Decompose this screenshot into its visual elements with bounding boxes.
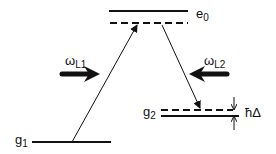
diagram-graphics <box>0 0 276 154</box>
lambda-level-diagram: e0 g1 g2 ωL1 ωL2 ħΔ <box>0 0 276 154</box>
up-transition-arrow <box>72 25 137 142</box>
label-omega-L1: ωL1 <box>65 54 86 70</box>
down-transition-arrow <box>162 25 200 108</box>
label-e0: e0 <box>196 7 209 23</box>
label-detuning: ħΔ <box>245 106 261 119</box>
label-g1: g1 <box>15 133 28 149</box>
label-g2: g2 <box>143 105 156 121</box>
label-omega-L2: ωL2 <box>204 54 225 70</box>
